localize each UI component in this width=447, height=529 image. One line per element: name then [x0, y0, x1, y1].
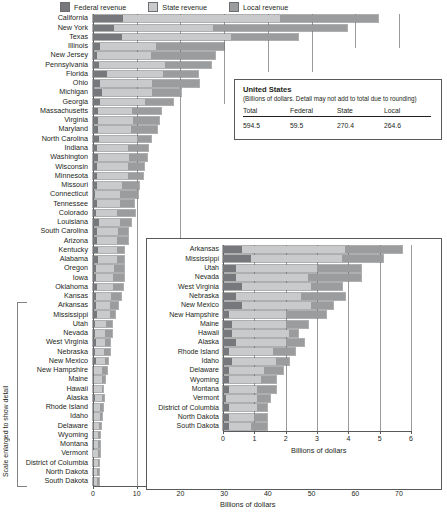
main-chart-bar-49 [93, 469, 99, 476]
bar-segment-state [95, 330, 105, 337]
main-chart-label-34: Nevada [63, 329, 88, 337]
main-chart-label-4: New Jersey [50, 51, 88, 59]
bar-segment-local [98, 450, 100, 457]
inset-axis-tick-label-6: 6 [409, 435, 413, 442]
bar-segment-fed [93, 25, 114, 32]
bar-segment-local [137, 136, 151, 143]
main-chart-label-7: Ohio [73, 79, 88, 87]
inset-axis-tick-label-1: 1 [252, 435, 256, 442]
inset-chart-bar-8 [223, 321, 308, 328]
inset-chart-label-9: Hawaii [198, 329, 219, 337]
inset-axis-tick-label-0: 0 [221, 435, 225, 442]
main-chart-bar-36 [93, 349, 110, 356]
bar-segment-local [120, 219, 130, 226]
inset-chart-bar-14 [223, 376, 276, 383]
legend-entry-1: State revenue [148, 2, 207, 12]
bar-segment-fed [93, 71, 107, 78]
bar-segment-state [97, 173, 128, 180]
main-chart-bar-2 [93, 34, 298, 41]
bar-segment-local [133, 117, 158, 124]
bar-segment-state [98, 247, 117, 254]
chart-legend: Federal revenueState revenueLocal revenu… [60, 1, 310, 13]
inset-axis-tick-6 [411, 431, 412, 434]
bar-segment-state [98, 126, 131, 133]
main-chart-label-45: Wyoming [58, 431, 88, 439]
bar-segment-state [97, 237, 116, 244]
legend-swatch-icon [60, 2, 70, 12]
bar-segment-local [110, 311, 116, 318]
main-chart-label-33: Utah [73, 320, 88, 328]
main-chart-bar-27 [93, 265, 124, 272]
inset-chart-label-17: District of Columbia [158, 404, 219, 412]
main-chart-label-46: Montana [60, 440, 88, 448]
inset-chart-label-5: Nebraska [189, 292, 219, 300]
main-chart-label-41: Alaska [66, 394, 88, 402]
main-chart-label-11: Virginia [64, 116, 88, 124]
inset-chart-bar-1 [223, 255, 383, 262]
inset-gridline-6 [411, 245, 412, 431]
bar-segment-local [122, 182, 139, 189]
main-chart-label-2: Texas [69, 33, 88, 41]
main-chart-label-26: Alabama [60, 255, 88, 263]
bar-segment-state [99, 62, 165, 69]
bar-segment-local [257, 395, 270, 402]
main-chart-label-30: Kansas [64, 292, 88, 300]
bar-segment-state [96, 293, 112, 300]
main-chart-bar-37 [93, 358, 108, 365]
main-chart-label-17: Minnesota [55, 172, 88, 180]
main-chart-bar-40 [93, 386, 103, 393]
bar-segment-fed [223, 255, 251, 262]
main-axis-tick-label-50: 50 [308, 490, 316, 497]
bar-segment-local [131, 126, 158, 133]
bar-segment-state [94, 376, 101, 383]
main-chart-label-35: West Virginia [46, 338, 88, 346]
main-chart-label-29: Oklahoma [55, 283, 88, 291]
us-table-header-2: State [337, 107, 384, 117]
bar-segment-state [95, 191, 120, 198]
main-gridline-70 [399, 14, 400, 48]
main-chart-bar-38 [93, 367, 107, 374]
main-chart-bar-9 [93, 99, 173, 106]
main-chart-bar-11 [93, 117, 159, 124]
legend-label: Local revenue [243, 3, 288, 12]
main-chart-label-8: Michigan [59, 88, 88, 96]
bar-segment-state [96, 210, 117, 217]
main-chart-label-48: District of Columbia [26, 459, 88, 467]
bar-segment-local [117, 247, 124, 254]
inset-chart-label-18: North Dakota [178, 413, 219, 421]
bar-segment-local [97, 469, 99, 476]
main-chart-bar-39 [93, 376, 105, 383]
main-chart-bar-1 [93, 25, 347, 32]
bar-segment-local [231, 34, 298, 41]
main-gridline-40 [268, 14, 269, 72]
main-chart-bar-24 [93, 237, 128, 244]
bar-segment-state [96, 265, 114, 272]
inset-chart-label-1: Mississippi [185, 255, 219, 263]
main-chart-bar-14 [93, 145, 148, 152]
bar-segment-local [102, 376, 105, 383]
main-chart-bar-35 [93, 339, 110, 346]
inset-chart-bar-4 [223, 283, 342, 290]
bar-segment-state [232, 358, 276, 365]
bar-segment-fed [93, 34, 122, 41]
main-axis-tick-10 [137, 486, 138, 489]
bar-segment-fed [223, 302, 242, 309]
bar-segment-state [97, 163, 128, 170]
bar-segment-local [128, 173, 143, 180]
inset-chart-bar-15 [223, 386, 276, 393]
main-chart-bar-28 [93, 274, 124, 281]
main-chart-label-6: Florida [66, 70, 88, 78]
main-chart-bar-30 [93, 293, 121, 300]
bar-segment-local [286, 339, 305, 346]
main-chart-bar-44 [93, 423, 101, 430]
table-header-row: TotalFederalStateLocal [243, 107, 431, 117]
main-chart-label-15: Washington [50, 153, 88, 161]
inset-chart-label-14: Wyoming [190, 376, 219, 384]
main-chart-label-14: Indiana [64, 144, 88, 152]
bar-segment-fed [223, 330, 232, 337]
main-chart-label-27: Oregon [64, 264, 88, 272]
bar-segment-state [236, 274, 308, 281]
main-chart-bar-29 [93, 284, 123, 291]
inset-gridline-5 [380, 245, 381, 431]
main-chart-label-36: Nebraska [57, 348, 88, 356]
